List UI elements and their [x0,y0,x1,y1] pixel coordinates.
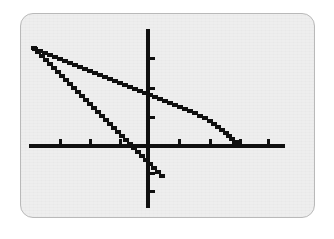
x-tick [59,139,62,144]
y-axis-ticks [150,57,155,193]
x-tick [267,139,270,144]
x-tick [89,139,92,144]
series-line-1-shallow [32,47,239,144]
x-axis [29,144,285,148]
x-tick [209,139,212,144]
y-tick [150,190,155,193]
chart-xlabel [0,0,1,1]
graphing-calculator-screen [20,13,315,218]
y-tick [150,57,155,60]
series-2-name: line-2-steep [0,0,1,1]
chart-ylabel [0,0,1,1]
x-tick [239,139,242,144]
screenshot-root: line-1-shallow line-2-steep [0,0,334,239]
y-tick [150,116,155,119]
graph-plot [21,14,314,217]
x-tick [178,139,181,144]
chart-title [0,0,1,1]
axes-group [29,29,285,208]
series-1-name: line-1-shallow [0,0,1,1]
x-tick [119,139,122,144]
y-axis [146,29,150,208]
series-line-2-steep [31,46,165,178]
y-tick [150,87,155,90]
y-tick [150,172,155,175]
